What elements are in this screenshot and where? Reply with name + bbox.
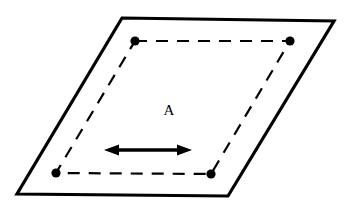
area-label-a: A — [164, 102, 175, 118]
node-bottom-left-dot — [51, 168, 60, 177]
solid-parallelogram-outline — [17, 18, 334, 196]
figure-container: A — [0, 0, 355, 214]
arrow-head-right-icon — [177, 145, 192, 156]
node-top-left-dot — [130, 36, 139, 45]
parallelogram-diagram: A — [0, 0, 355, 214]
node-top-right-dot — [285, 36, 294, 45]
node-bottom-right-dot — [206, 169, 215, 178]
double-headed-arrow — [104, 145, 192, 156]
arrow-head-left-icon — [104, 145, 119, 156]
